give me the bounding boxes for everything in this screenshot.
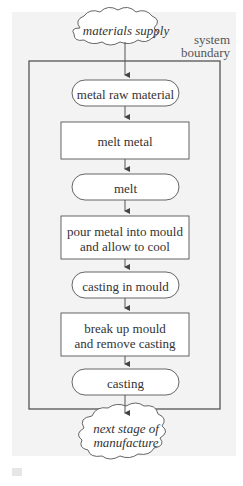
process-label: pour metal into mouldand allow to cool [61, 224, 189, 254]
material-label: melt [72, 181, 179, 196]
sink-label-line-2: manufacture [72, 436, 180, 450]
label-line: melt metal [61, 134, 189, 149]
label-line: break up mould [61, 321, 189, 336]
material-label: casting in mould [72, 279, 179, 294]
system-boundary-label: system boundary [181, 33, 230, 59]
label-line: metal raw material [72, 87, 179, 102]
material-label: metal raw material [72, 87, 179, 102]
process-label: break up mouldand remove casting [61, 321, 189, 351]
label-line: pour metal into mould [61, 224, 189, 239]
label-line: and remove casting [61, 336, 189, 351]
material-label: casting [72, 376, 179, 391]
label-line: casting in mould [72, 279, 179, 294]
process-label: melt metal [61, 134, 189, 149]
sink-label: next stage of manufacture [72, 422, 180, 450]
sink-label-line-1: next stage of [72, 422, 180, 436]
label-line: casting [72, 376, 179, 391]
label-line: melt [72, 181, 179, 196]
boundary-label-line-2: boundary [181, 46, 230, 59]
source-label: materials supply [76, 24, 176, 38]
footer-mark [12, 468, 22, 476]
label-line: and allow to cool [61, 239, 189, 254]
